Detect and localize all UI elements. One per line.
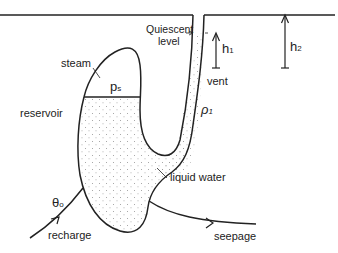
liquid-water-label: liquid water [170,172,226,183]
level-label: level [158,36,180,47]
theta0-label: θo [52,196,64,209]
h2-label: h2 [290,40,302,53]
ps-label: ps [110,80,121,93]
rho1-label: ρ1 [201,103,213,116]
h1-label: h1 [222,42,234,55]
recharge-label: recharge [48,230,91,241]
geyser-diagram: Quiescent level h1 h2 steam ps reservoir… [0,0,338,253]
quiescent-label: Quiescent [146,24,193,35]
steam-label: steam [61,58,91,69]
reservoir-label: reservoir [20,108,63,119]
seepage-flow-line [149,201,256,224]
vent-label: vent [207,76,228,87]
seepage-label: seepage [214,231,256,242]
